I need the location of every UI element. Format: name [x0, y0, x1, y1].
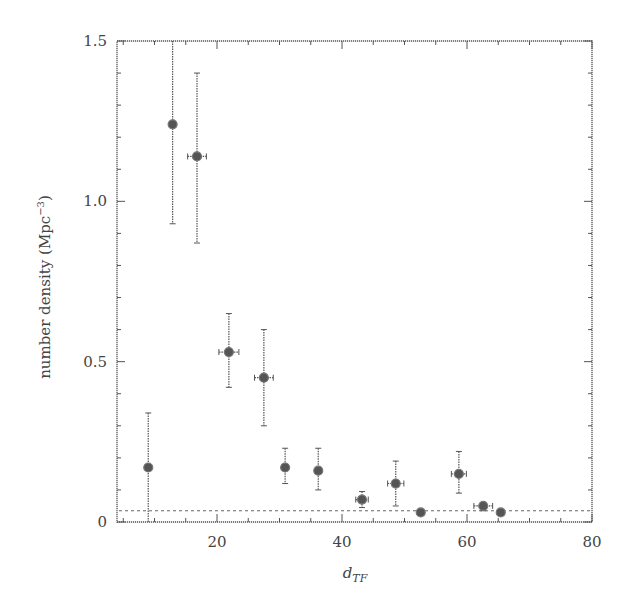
point-marker	[224, 348, 233, 357]
x-tick-label: 60	[457, 533, 476, 551]
y-tick-label: 1.5	[83, 32, 107, 50]
data-point	[219, 314, 239, 388]
data-point	[496, 508, 505, 517]
data-point	[281, 448, 290, 483]
x-axis-label-subscript: TF	[352, 572, 367, 585]
data-point	[474, 501, 493, 510]
y-axis-label-main: number density (Mpc	[36, 216, 54, 379]
axis-tick-labels: 2040608000.51.01.5	[83, 32, 601, 551]
y-tick-label: 0	[97, 513, 107, 531]
data-point	[356, 492, 369, 508]
data-point	[255, 330, 274, 426]
x-axis-label: dTF	[343, 564, 368, 585]
data-point	[144, 413, 153, 522]
data-point	[388, 461, 404, 506]
point-marker	[144, 463, 153, 472]
y-tick-label: 1.0	[83, 192, 107, 210]
chart-figure: 2040608000.51.01.5 dTF number density (M…	[0, 0, 630, 615]
y-axis-label-close: )	[36, 195, 54, 201]
y-axis-label-superscript: −3	[35, 201, 46, 216]
point-marker	[479, 501, 488, 510]
y-axis-label: number density (Mpc−3)	[35, 195, 54, 379]
point-marker	[314, 466, 323, 475]
point-marker	[281, 463, 290, 472]
point-marker	[416, 508, 425, 517]
data-point	[416, 508, 425, 517]
x-axis-label-main: d	[343, 564, 353, 582]
data-point	[451, 451, 466, 493]
point-marker	[358, 495, 367, 504]
data-point	[314, 448, 323, 490]
plot-frame	[117, 41, 592, 522]
data-point	[188, 73, 207, 243]
x-tick-label: 80	[582, 533, 601, 551]
data-points	[144, 41, 506, 522]
point-marker	[391, 479, 400, 488]
y-tick-label: 0.5	[83, 353, 107, 371]
axis-ticks	[117, 41, 592, 522]
point-marker	[193, 152, 202, 161]
x-tick-label: 20	[207, 533, 226, 551]
point-marker	[259, 373, 268, 382]
point-marker	[454, 469, 463, 478]
point-marker	[496, 508, 505, 517]
data-point	[168, 41, 177, 224]
point-marker	[168, 120, 177, 129]
plot-frame-rect	[117, 41, 592, 522]
x-tick-label: 40	[332, 533, 351, 551]
